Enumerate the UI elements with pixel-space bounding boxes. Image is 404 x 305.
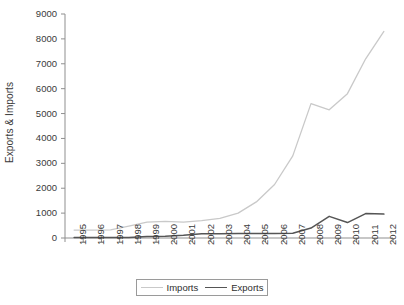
axis-lines: [65, 14, 393, 238]
x-tick-label: 2001: [187, 224, 197, 245]
legend-line-imports-icon: [141, 287, 163, 288]
chart-legend: Imports Exports: [136, 279, 268, 296]
legend-item-exports: Exports: [205, 283, 263, 293]
x-tick-label: 1997: [115, 224, 125, 245]
x-tick-label: 2000: [169, 224, 179, 245]
x-tick-label: 1998: [133, 224, 143, 245]
x-tick-label: 2005: [260, 224, 270, 245]
x-tick-label: 2004: [242, 224, 252, 245]
x-tick-label: 2006: [279, 224, 289, 245]
x-tick-label: 1996: [96, 224, 106, 245]
x-tick-label: 2012: [388, 224, 398, 245]
legend-item-imports: Imports: [141, 283, 199, 293]
data-series-group: [74, 31, 384, 237]
x-tick-label: 2003: [224, 224, 234, 245]
legend-label-exports: Exports: [231, 283, 263, 293]
series-line-imports: [74, 31, 384, 230]
x-tick-label: 1999: [151, 224, 161, 245]
x-tick-label: 2010: [351, 224, 361, 245]
y-axis-ticks: [61, 14, 65, 238]
legend-label-imports: Imports: [167, 283, 199, 293]
x-tick-label: 2009: [333, 224, 343, 245]
x-tick-label: 2011: [370, 225, 380, 245]
legend-line-exports-icon: [205, 287, 227, 288]
x-tick-label: 2007: [297, 224, 307, 245]
x-tick-label: 2002: [206, 224, 216, 245]
x-tick-label: 1995: [78, 224, 88, 245]
line-chart: Exports & Imports 0100020003000400050006…: [0, 0, 404, 305]
x-tick-label: 2008: [315, 224, 325, 245]
plot-area: [0, 0, 404, 305]
